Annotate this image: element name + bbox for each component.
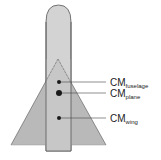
cm-wing-dot — [57, 116, 61, 120]
fuselage-center-section — [46, 59, 71, 151]
label-cm-wing: CMwing — [110, 113, 138, 125]
cm-fuselage-dot — [57, 80, 61, 84]
airplane-cm-diagram: CMfuselage CMplane CMwing — [0, 0, 161, 160]
cm-plane-dot — [56, 90, 62, 96]
label-cm-plane: CMplane — [110, 88, 141, 100]
